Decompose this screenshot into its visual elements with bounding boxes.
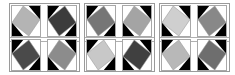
puzzle-tile[interactable] xyxy=(161,39,191,71)
diamond-tile-icon xyxy=(123,40,151,70)
puzzle-tile[interactable] xyxy=(47,39,77,71)
diamond-tile-icon xyxy=(12,6,40,36)
diamond-tile-icon xyxy=(123,6,151,36)
diamond-tile-icon xyxy=(87,40,115,70)
diamond-tile-icon xyxy=(162,40,190,70)
diamond-tile-icon xyxy=(198,40,226,70)
puzzle-tile[interactable] xyxy=(11,5,41,37)
tile-group-1 xyxy=(9,3,80,72)
puzzle-board xyxy=(0,0,235,75)
puzzle-tile[interactable] xyxy=(86,5,116,37)
puzzle-tile[interactable] xyxy=(197,39,227,71)
tile-group-2 xyxy=(84,3,155,72)
diamond-tile-icon xyxy=(48,40,76,70)
puzzle-tile[interactable] xyxy=(161,5,191,37)
puzzle-tile[interactable] xyxy=(86,39,116,71)
puzzle-tile[interactable] xyxy=(11,39,41,71)
tile-group-3 xyxy=(159,3,230,72)
puzzle-tile[interactable] xyxy=(197,5,227,37)
diamond-tile-icon xyxy=(198,6,226,36)
puzzle-tile[interactable] xyxy=(122,5,152,37)
diamond-tile-icon xyxy=(87,6,115,36)
diamond-tile-icon xyxy=(48,6,76,36)
diamond-tile-icon xyxy=(162,6,190,36)
diamond-tile-icon xyxy=(12,40,40,70)
puzzle-tile[interactable] xyxy=(47,5,77,37)
puzzle-tile[interactable] xyxy=(122,39,152,71)
